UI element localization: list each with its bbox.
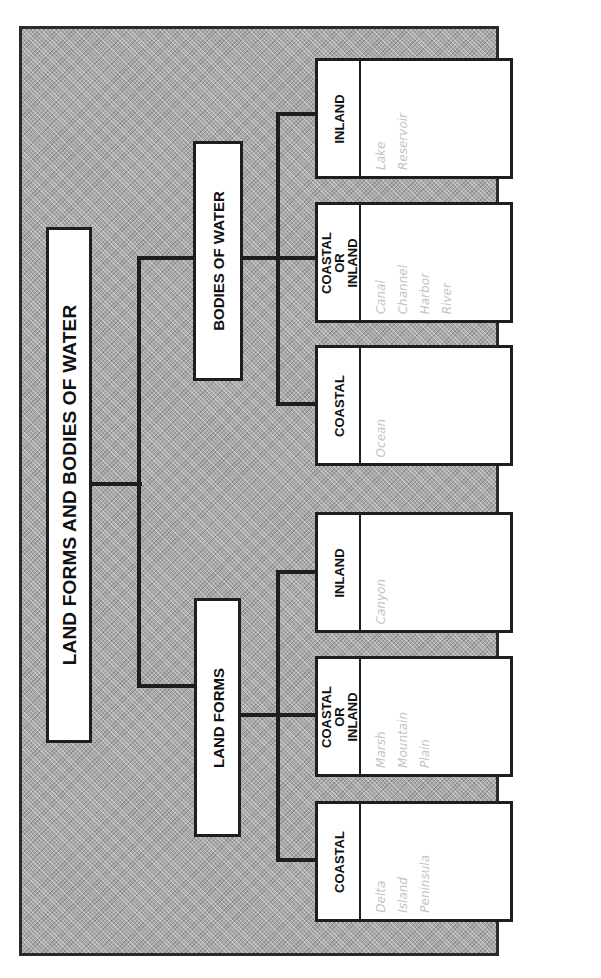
connector-leaf (276, 713, 316, 717)
item: Canal (371, 265, 391, 314)
leaf-content: Lake Reservoir (361, 61, 510, 176)
leaf-header: INLAND (318, 61, 361, 176)
leaf-bodies-coastal: COASTAL Ocean (315, 345, 513, 466)
item: Marsh (371, 712, 391, 768)
leaf-content: Delta Island Peninsula (361, 804, 510, 919)
item: Ocean (371, 419, 391, 457)
leaf-bodies-inland: INLAND Lake Reservoir (315, 58, 513, 179)
leaf-label: INLAND (332, 548, 345, 597)
leaf-land-coastal-or-inland: COASTAL OR INLAND Marsh Mountain Plain (315, 656, 513, 777)
leaf-land-coastal: COASTAL Delta Island Peninsula (315, 801, 513, 922)
leaf-header: INLAND (318, 515, 361, 630)
item: Peninsula (415, 855, 435, 913)
leaf-header: COASTAL OR INLAND (318, 659, 361, 774)
leaf-label: COASTAL OR INLAND (319, 682, 358, 752)
leaf-label: COASTAL OR INLAND (319, 228, 358, 298)
item: Mountain (393, 712, 413, 768)
connector-leaf (276, 858, 316, 862)
leaf-land-inland: INLAND Canyon (315, 512, 513, 633)
connector-title (92, 482, 142, 486)
leaf-content: Ocean (361, 348, 510, 463)
item: River (437, 265, 457, 314)
branch-box-land-forms: LAND FORMS (194, 598, 241, 837)
connector-leaf (276, 570, 316, 574)
connector-leaf (276, 112, 316, 116)
leaf-header: COASTAL OR INLAND (318, 205, 361, 320)
connector-bodies-right (243, 256, 279, 260)
branch-label: BODIES OF WATER (211, 191, 226, 331)
spine-main (137, 256, 141, 688)
leaf-content: Marsh Mountain Plain (361, 659, 510, 774)
title-box: LAND FORMS AND BODIES OF WATER (46, 227, 92, 743)
item: Lake (371, 113, 391, 170)
leaf-content: Canal Channel Harbor River (361, 205, 510, 320)
leaf-header: COASTAL (318, 348, 361, 463)
leaf-label: INLAND (332, 94, 345, 143)
connector-landforms-right (241, 713, 279, 717)
item: Canyon (371, 579, 391, 624)
leaf-content: Canyon (361, 515, 510, 630)
leaf-header: COASTAL (318, 804, 361, 919)
item: Harbor (415, 265, 435, 314)
leaf-label: COASTAL (332, 375, 345, 437)
leaf-label-text: COASTAL OR INLAND (319, 682, 358, 752)
item: Plain (415, 712, 435, 768)
connector-leaf (276, 256, 316, 260)
leaf-bodies-coastal-or-inland: COASTAL OR INLAND Canal Channel Harbor R… (315, 202, 513, 323)
branch-box-bodies-of-water: BODIES OF WATER (193, 141, 243, 381)
branch-label: LAND FORMS (210, 668, 225, 768)
item: Delta (371, 855, 391, 913)
leaf-label: COASTAL (332, 831, 345, 893)
leaf-label-text: COASTAL OR INLAND (319, 228, 358, 298)
item: Island (393, 855, 413, 913)
connector-landforms (137, 684, 197, 688)
connector-bodies (137, 256, 195, 260)
item: Reservoir (393, 113, 413, 170)
item: Channel (393, 265, 413, 314)
connector-leaf (276, 402, 316, 406)
diagram-title: LAND FORMS AND BODIES OF WATER (60, 305, 79, 666)
